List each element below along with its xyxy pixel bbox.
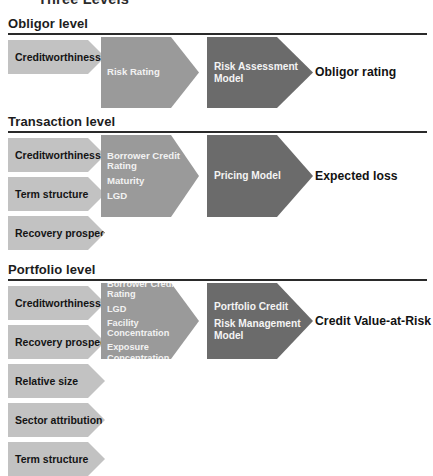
input-chevron-label: Relative size <box>8 375 78 387</box>
factor-chevron-list: Risk Rating <box>101 67 160 78</box>
model-line: Risk Management Model <box>214 318 313 341</box>
factor-item: LGD <box>107 191 199 202</box>
input-chevron-creditworthiness-transaction[interactable]: Creditworthiness <box>8 138 105 172</box>
factor-item: Risk Rating <box>107 67 160 78</box>
model-line: Risk Assessment <box>214 61 298 73</box>
input-chevron-label: Term structure <box>8 188 88 200</box>
model-line: Model <box>214 73 298 85</box>
input-chevron-label: Recovery prospects <box>8 336 115 348</box>
factor-item: Borrower Credit Rating <box>107 279 199 300</box>
section-portfolio-level: Portfolio level Creditworthiness Recover… <box>0 262 433 476</box>
model-line: Pricing Model <box>214 170 281 182</box>
section-rule-transaction <box>8 131 427 133</box>
section-rule-portfolio <box>8 279 427 281</box>
output-label-obligor: Obligor rating <box>315 65 396 79</box>
input-chevron-relative-size[interactable]: Relative size <box>8 364 105 398</box>
model-chevron-transaction[interactable]: Pricing Model <box>207 135 313 217</box>
factor-chevron-list: Borrower Credit Rating Maturity LGD <box>101 151 199 202</box>
section-rule-obligor <box>8 33 427 35</box>
input-chevron-label: Creditworthiness <box>8 51 101 63</box>
input-chevron-label: Creditworthiness <box>8 297 101 309</box>
input-chevron-creditworthiness-portfolio[interactable]: Creditworthiness <box>8 286 105 320</box>
input-chevron-recovery-prospects-transaction[interactable]: Recovery prospects <box>8 216 105 250</box>
factor-item: Borrower Credit Rating <box>107 151 199 172</box>
factor-chevron-transaction[interactable]: Borrower Credit Rating Maturity LGD <box>101 135 199 217</box>
factor-item: Maturity <box>107 176 199 187</box>
factor-chevron-list: Borrower Credit Rating LGD Facility Conc… <box>101 279 199 363</box>
page-title: Three Levels <box>38 0 129 7</box>
section-header-portfolio: Portfolio level <box>8 262 95 277</box>
input-chevron-creditworthiness-obligor[interactable]: Creditworthiness <box>8 40 105 74</box>
section-obligor-level: Obligor level Creditworthiness Risk Rati… <box>0 16 433 108</box>
model-chevron-portfolio[interactable]: Portfolio Credit Risk Management Model <box>207 283 313 359</box>
model-chevron-text: Pricing Model <box>207 170 281 182</box>
input-chevron-label: Sector attribution <box>8 414 103 426</box>
output-label-transaction: Expected loss <box>315 169 398 183</box>
input-chevron-sector-attribution[interactable]: Sector attribution <box>8 403 105 437</box>
factor-chevron-obligor[interactable]: Risk Rating <box>101 37 199 108</box>
input-chevron-label: Creditworthiness <box>8 149 101 161</box>
factor-item: LGD <box>107 304 199 314</box>
section-transaction-level: Transaction level Creditworthiness Term … <box>0 114 433 254</box>
input-chevron-label: Term structure <box>8 453 88 465</box>
model-chevron-text: Portfolio Credit Risk Management Model <box>207 301 313 342</box>
input-chevron-label: Recovery prospects <box>8 227 115 239</box>
model-line: Portfolio Credit <box>214 301 313 313</box>
section-header-obligor: Obligor level <box>8 16 88 31</box>
input-chevron-term-structure-portfolio[interactable]: Term structure <box>8 442 105 476</box>
input-chevron-term-structure-transaction[interactable]: Term structure <box>8 177 105 211</box>
model-chevron-text: Risk Assessment Model <box>207 61 298 84</box>
model-chevron-obligor[interactable]: Risk Assessment Model <box>207 37 313 108</box>
output-label-portfolio: Credit Value-at-Risk <box>315 314 431 328</box>
factor-item: Facility Concentration <box>107 318 199 339</box>
factor-chevron-portfolio[interactable]: Borrower Credit Rating LGD Facility Conc… <box>101 283 199 359</box>
section-header-transaction: Transaction level <box>8 114 115 129</box>
input-chevron-recovery-prospects-portfolio[interactable]: Recovery prospects <box>8 325 105 359</box>
factor-item: Exposure Concentration <box>107 342 199 363</box>
